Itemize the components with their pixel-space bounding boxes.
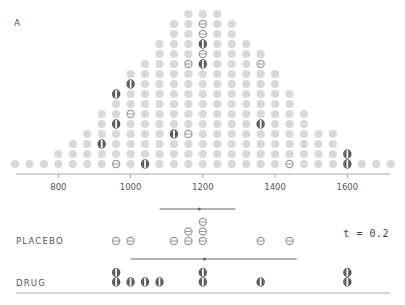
distribution-dot <box>170 70 178 78</box>
distribution-dot <box>329 140 337 148</box>
distribution-dot <box>184 90 192 98</box>
distribution-dot <box>184 110 192 118</box>
distribution-dot <box>141 70 149 78</box>
distribution-dot <box>199 160 207 168</box>
distribution-dot <box>358 160 366 168</box>
distribution-dot <box>257 80 265 88</box>
distribution-dot <box>213 130 221 138</box>
distribution-dot <box>69 150 77 158</box>
distribution-dot <box>387 160 395 168</box>
distribution-dot <box>127 140 135 148</box>
distribution-dot <box>242 70 250 78</box>
drug-mean-marker <box>203 257 206 260</box>
distribution-dot <box>372 160 380 168</box>
distribution-dot <box>228 160 236 168</box>
distribution-dot <box>127 160 135 168</box>
distribution-dot <box>155 70 163 78</box>
distribution-dot <box>242 160 250 168</box>
distribution-dot <box>155 50 163 58</box>
distribution-dot <box>184 120 192 128</box>
distribution-dot <box>112 150 120 158</box>
distribution-dot <box>141 110 149 118</box>
distribution-dot <box>199 100 207 108</box>
distribution-dot <box>213 10 221 18</box>
distribution-dot <box>199 10 207 18</box>
x-tick-label: 1000 <box>120 182 142 192</box>
distribution-dot <box>112 140 120 148</box>
distribution-dot <box>170 30 178 38</box>
distribution-dot <box>199 80 207 88</box>
distribution-dot <box>329 160 337 168</box>
distribution-dot <box>199 90 207 98</box>
distribution-dot <box>242 50 250 58</box>
distribution-dot <box>112 130 120 138</box>
distribution-dot <box>170 50 178 58</box>
distribution-dot <box>242 130 250 138</box>
distribution-dot <box>228 40 236 48</box>
distribution-dots <box>11 10 395 168</box>
distribution-dot <box>285 150 293 158</box>
placebo-mean-marker <box>198 207 201 210</box>
distribution-dot <box>170 40 178 48</box>
distribution-dot <box>170 110 178 118</box>
distribution-dot <box>300 160 308 168</box>
distribution-dot <box>170 140 178 148</box>
distribution-dot <box>213 40 221 48</box>
distribution-dot <box>83 140 91 148</box>
distribution-dot <box>300 130 308 138</box>
distribution-dot <box>314 140 322 148</box>
distribution-dot <box>213 160 221 168</box>
distribution-dot <box>112 100 120 108</box>
distribution-dot <box>112 110 120 118</box>
distribution-dot <box>25 160 33 168</box>
distribution-dot <box>213 150 221 158</box>
distribution-dot <box>184 100 192 108</box>
distribution-dot <box>98 150 106 158</box>
distribution-dot <box>69 160 77 168</box>
distribution-dot <box>257 110 265 118</box>
distribution-dot <box>300 150 308 158</box>
distribution-dot <box>314 130 322 138</box>
distribution-dot <box>271 100 279 108</box>
distribution-dot <box>155 80 163 88</box>
distribution-dot <box>314 150 322 158</box>
distribution-dot <box>271 120 279 128</box>
distribution-dot <box>54 150 62 158</box>
distribution-dot <box>170 90 178 98</box>
distribution-dot <box>257 50 265 58</box>
distribution-dot <box>285 90 293 98</box>
distribution-dot <box>242 120 250 128</box>
distribution-dot <box>228 80 236 88</box>
distribution-dot <box>170 60 178 68</box>
distribution-dot <box>242 40 250 48</box>
distribution-dot <box>271 70 279 78</box>
distribution-dot <box>213 90 221 98</box>
distribution-dot <box>228 90 236 98</box>
distribution-dot <box>213 120 221 128</box>
distribution-dot <box>285 140 293 148</box>
x-tick-label: 1200 <box>192 182 214 192</box>
distribution-dot <box>271 140 279 148</box>
distribution-dot <box>155 150 163 158</box>
placebo-sample-row <box>113 207 294 244</box>
distribution-dot <box>184 150 192 158</box>
distribution-dot <box>141 100 149 108</box>
distribution-dot <box>228 120 236 128</box>
distribution-dot <box>127 90 135 98</box>
distribution-dot <box>199 140 207 148</box>
distribution-dot <box>184 50 192 58</box>
distribution-dot <box>155 90 163 98</box>
distribution-dot <box>213 110 221 118</box>
distribution-dot <box>98 120 106 128</box>
distribution-dot <box>257 130 265 138</box>
distribution-dot <box>242 140 250 148</box>
distribution-dot <box>329 130 337 138</box>
distribution-dot <box>141 130 149 138</box>
distribution-dot <box>228 50 236 58</box>
distribution-dot <box>300 120 308 128</box>
distribution-dot <box>141 120 149 128</box>
distribution-dot <box>257 70 265 78</box>
x-tick-label: 1400 <box>264 182 286 192</box>
distribution-dot <box>170 80 178 88</box>
distribution-dot <box>242 110 250 118</box>
